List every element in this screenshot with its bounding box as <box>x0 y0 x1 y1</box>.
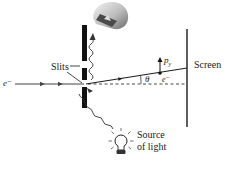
diagram-canvas <box>0 0 234 170</box>
double-slit-diagram: Slits Screen Source of light e⁻ θ e⁻ py <box>0 0 234 170</box>
momentum-subscript: y <box>169 61 172 67</box>
source-label-line2: of light <box>137 142 166 152</box>
microscope-icon <box>93 2 128 29</box>
momentum-arrow-icon <box>158 57 163 71</box>
angle-theta-label: θ <box>145 75 149 84</box>
deflected-electron-label: e⁻ <box>162 76 170 84</box>
source-label-line1: Source <box>137 130 165 140</box>
deflected-electron-path <box>86 68 187 84</box>
incoming-electron-label: e⁻ <box>3 79 12 88</box>
light-bulb-icon <box>109 128 134 154</box>
scattered-photon-wave <box>89 33 96 80</box>
slits-label: Slits <box>51 62 69 72</box>
momentum-py-label: py <box>164 56 171 67</box>
screen-label: Screen <box>194 60 221 70</box>
slit-barrier <box>82 25 87 108</box>
slits-leader-lines <box>67 66 82 83</box>
incoming-electron-path <box>15 82 84 86</box>
